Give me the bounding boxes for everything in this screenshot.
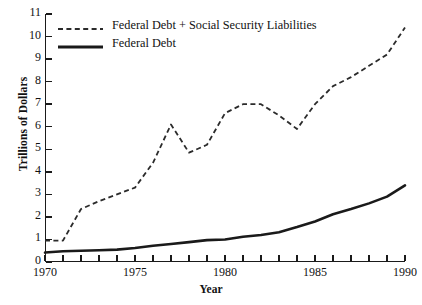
x-axis-tick-label: 1980: [213, 266, 237, 278]
y-axis-tick-label: 9: [35, 51, 41, 63]
plot-area: 01234567891011 19701975198019851990 Fede…: [45, 14, 405, 262]
series-line-federal-debt: [45, 185, 405, 252]
y-axis-tick-label: 8: [35, 74, 41, 86]
y-axis-title: Trillions of Dollars: [17, 44, 29, 204]
x-axis-tick-label: 1975: [123, 266, 147, 278]
legend-label-federal-debt-plus-social-security: Federal Debt + Social Security Liabiliti…: [112, 19, 317, 31]
chart-figure: Trillions of Dollars 01234567891011 1970…: [0, 0, 422, 305]
legend-swatch-solid-icon: [58, 38, 103, 48]
x-axis-tick-label: 1990: [393, 266, 417, 278]
chart-legend: Federal Debt + Social Security Liabiliti…: [58, 16, 378, 52]
y-axis-tick-label: 5: [35, 141, 41, 153]
legend-label-federal-debt: Federal Debt: [112, 37, 176, 49]
solid-line-icon: [58, 42, 103, 52]
dashed-line-icon: [58, 24, 103, 34]
y-axis-tick-label: 1: [35, 231, 41, 243]
y-axis-tick-label: 11: [29, 6, 41, 18]
y-axis-tick-label: 3: [35, 186, 41, 198]
y-axis-tick-label: 7: [35, 96, 41, 108]
legend-swatch-dashed-icon: [58, 20, 103, 30]
legend-item-federal-debt-plus-social-security: Federal Debt + Social Security Liabiliti…: [58, 16, 378, 34]
x-axis-title: Year: [0, 283, 422, 295]
legend-item-federal-debt: Federal Debt: [58, 34, 378, 52]
y-axis-tick-label: 10: [29, 29, 41, 41]
x-axis-tick-label: 1985: [303, 266, 327, 278]
x-axis-tick-label: 1970: [33, 266, 57, 278]
y-axis-tick-label: 4: [35, 164, 41, 176]
y-axis-tick-label: 2: [35, 209, 41, 221]
y-axis-tick-label: 6: [35, 119, 41, 131]
